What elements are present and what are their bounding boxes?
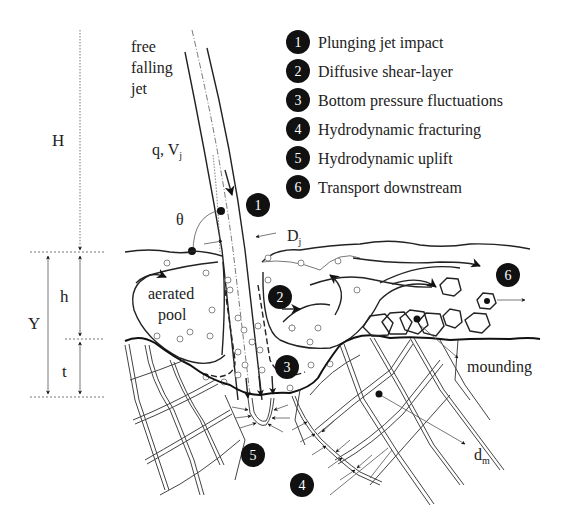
jet-label-line2: falling <box>131 59 173 77</box>
svg-text:4: 4 <box>299 478 306 493</box>
svg-text:5: 5 <box>250 448 257 463</box>
drop-height-label: H <box>52 131 64 150</box>
dimension-lines <box>30 30 105 397</box>
scour-process-diagram: H h Y t free falling jet q, Vj θ Dj aera… <box>0 0 573 527</box>
legend-item-2: 2Diffusive shear-layer <box>286 59 454 83</box>
transported-block <box>440 278 461 296</box>
block-size-label: dm <box>474 446 490 466</box>
svg-text:Plunging jet impact: Plunging jet impact <box>318 34 444 52</box>
svg-text:Diffusive shear-layer: Diffusive shear-layer <box>318 63 454 81</box>
marker-4: 4 <box>290 473 314 497</box>
marker-1: 1 <box>246 193 270 217</box>
svg-text:6: 6 <box>505 268 512 283</box>
marker-2: 2 <box>268 285 292 309</box>
angle-label: θ <box>176 211 184 228</box>
svg-text:2: 2 <box>277 290 284 305</box>
svg-text:Bottom pressure fluctuations: Bottom pressure fluctuations <box>318 92 503 110</box>
mounding-rock-blocks <box>363 309 490 336</box>
air-bubbles <box>154 255 360 391</box>
marker-6: 6 <box>496 263 520 287</box>
uplift-crack <box>232 398 290 432</box>
svg-text:1: 1 <box>295 35 302 50</box>
fractured-rock-mass <box>125 338 504 505</box>
flow-label: q, Vj <box>152 141 182 161</box>
legend-item-4: 4Hydrodynamic fracturing <box>286 117 481 141</box>
svg-text:5: 5 <box>295 151 302 166</box>
svg-text:Hydrodynamic fracturing: Hydrodynamic fracturing <box>318 121 481 139</box>
svg-text:Transport downstream: Transport downstream <box>318 179 462 197</box>
total-depth-label: Y <box>28 314 40 333</box>
pool-depth-label: h <box>60 287 69 306</box>
legend-item-6: 6Transport downstream <box>286 175 462 199</box>
marker-3: 3 <box>275 355 299 379</box>
jet-label-line3: jet <box>130 80 148 98</box>
svg-text:6: 6 <box>295 180 302 195</box>
jet-diameter-label: Dj <box>287 227 301 247</box>
svg-text:1: 1 <box>255 198 262 213</box>
water-surface <box>125 250 222 256</box>
svg-text:2: 2 <box>295 64 302 79</box>
scour-depth-label: t <box>62 362 67 381</box>
marker-5: 5 <box>241 443 265 467</box>
legend: 1Plunging jet impact 2Diffusive shear-la… <box>286 30 503 199</box>
svg-text:3: 3 <box>295 93 302 108</box>
legend-item-3: 3Bottom pressure fluctuations <box>286 88 503 112</box>
svg-text:Hydrodynamic uplift: Hydrodynamic uplift <box>318 150 453 168</box>
pool-label-line2: pool <box>158 306 187 324</box>
mounding-label: mounding <box>467 358 532 376</box>
legend-item-5: 5Hydrodynamic uplift <box>286 146 453 170</box>
legend-item-1: 1Plunging jet impact <box>286 30 444 54</box>
svg-text:3: 3 <box>284 360 291 375</box>
svg-text:4: 4 <box>295 122 302 137</box>
pool-label-line1: aerated <box>148 285 194 302</box>
jet-label-line1: free <box>131 38 156 55</box>
